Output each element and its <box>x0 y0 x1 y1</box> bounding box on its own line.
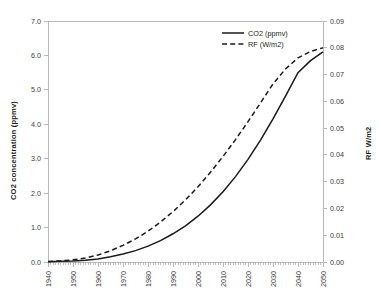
x-tick-label: 2040 <box>294 271 303 287</box>
y-right-tick-label: 0.01 <box>330 231 344 240</box>
data-series-group <box>48 48 323 262</box>
y-left-tick-label: 4.0 <box>31 120 41 129</box>
x-tick-label: 1980 <box>144 271 153 287</box>
y-left-tick-label: 7.0 <box>31 17 41 26</box>
x-tick-label: 2000 <box>194 271 203 287</box>
chart-canvas: 0.01.02.03.04.05.06.07.0 0.000.010.020.0… <box>0 0 380 306</box>
y-left-tick-label: 2.0 <box>31 189 41 198</box>
y-right-tick-label: 0.02 <box>330 204 344 213</box>
x-tick-label: 2010 <box>219 271 228 287</box>
y-axis-right-ticks <box>323 21 327 262</box>
y-axis-right-title: RF W/m2 <box>364 127 373 160</box>
x-tick-label: 2050 <box>319 271 328 287</box>
y-right-tick-label: 0.03 <box>330 177 344 186</box>
x-tick-label: 1990 <box>169 271 178 287</box>
legend-label-2: RF (W/m2) <box>248 40 284 49</box>
x-tick-label: 2020 <box>244 271 253 287</box>
y-left-tick-label: 6.0 <box>31 51 41 60</box>
y-right-tick-label: 0.09 <box>330 17 344 26</box>
y-left-tick-label: 3.0 <box>31 154 41 163</box>
y-axis-left-ticks <box>44 21 48 262</box>
y-left-tick-label: 5.0 <box>31 85 41 94</box>
y-axis-left-tick-labels: 0.01.02.03.04.05.06.07.0 <box>31 17 41 267</box>
x-tick-label: 1970 <box>119 271 128 287</box>
y-right-tick-label: 0.05 <box>330 124 344 133</box>
series-line-1 <box>48 52 323 262</box>
x-tick-label: 1950 <box>69 271 78 287</box>
y-left-tick-label: 1.0 <box>31 223 41 232</box>
y-axis-left-title: CO2 concentration (ppmv) <box>9 101 18 200</box>
y-right-tick-label: 0.06 <box>330 97 344 106</box>
x-tick-label: 1960 <box>94 271 103 287</box>
legend-label-1: CO2 (ppmv) <box>248 29 288 38</box>
y-right-tick-label: 0.04 <box>330 150 344 159</box>
x-axis-tick-labels: 1940195019601970198019902000201020202030… <box>44 271 328 287</box>
y-right-tick-label: 0.00 <box>330 258 344 267</box>
y-left-tick-label: 0.0 <box>31 258 41 267</box>
chart-legend: CO2 (ppmv)RF (W/m2) <box>222 29 288 49</box>
y-right-tick-label: 0.08 <box>330 43 344 52</box>
x-tick-label: 2030 <box>269 271 278 287</box>
y-axis-right-tick-labels: 0.000.010.020.030.040.050.060.070.080.09 <box>330 17 344 267</box>
x-tick-label: 1940 <box>44 271 53 287</box>
series-line-2 <box>48 48 323 262</box>
chart-container: 0.01.02.03.04.05.06.07.0 0.000.010.020.0… <box>0 0 380 306</box>
y-right-tick-label: 0.07 <box>330 70 344 79</box>
